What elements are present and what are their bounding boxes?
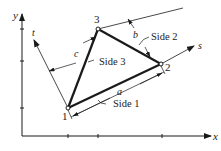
t-axis-label: t	[32, 27, 35, 38]
side-1-label: Side 1	[113, 98, 140, 109]
node-3-label: 3	[94, 13, 100, 25]
y-axis-label: y	[12, 9, 18, 21]
node-2-label: 2	[165, 61, 171, 73]
node-2	[159, 62, 163, 66]
x-axis-label: x	[212, 130, 218, 142]
s-axis-label: s	[198, 40, 202, 51]
dimension-b-label: b	[133, 29, 138, 40]
dimension-c-label: c	[74, 48, 79, 59]
t-axis	[34, 40, 68, 108]
side-3-label: Side 3	[99, 56, 126, 67]
side-3-leader	[88, 60, 94, 62]
node3-reference-line	[98, 8, 183, 29]
x-axis	[22, 134, 211, 138]
triangle-element-diagram: y x t s c b a 1 2 3 Side	[0, 0, 221, 151]
side-2-label: Side 2	[151, 31, 178, 42]
y-axis	[20, 14, 24, 136]
node-3	[96, 27, 100, 31]
node-1-label: 1	[62, 110, 68, 122]
dimension-a-label: a	[117, 86, 122, 97]
side-2-leader	[139, 37, 149, 45]
